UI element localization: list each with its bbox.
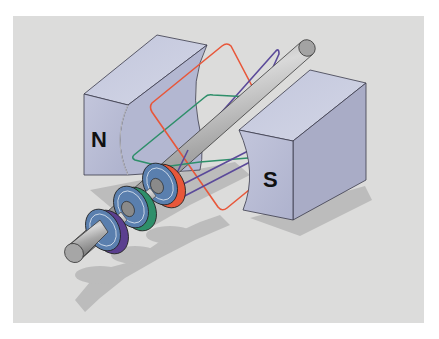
south-pole-label: S	[263, 167, 278, 192]
diagram-figure: N S	[0, 0, 439, 339]
north-pole-label: N	[91, 127, 107, 152]
generator-diagram: N S	[0, 0, 439, 339]
